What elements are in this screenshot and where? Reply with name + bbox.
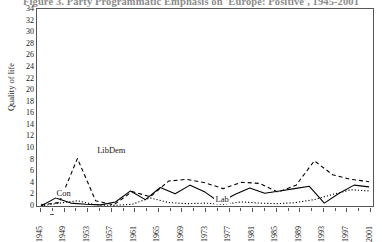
x-tick-label: 1969: [177, 226, 185, 242]
x-tick-mark: [64, 208, 65, 212]
x-tick-mark: [346, 208, 347, 212]
x-tick-mark: [299, 208, 300, 212]
y-tick-label: 34: [26, 5, 34, 13]
x-minor-tick-mark: [193, 208, 194, 211]
x-tick-mark: [276, 208, 277, 212]
x-tick-mark: [229, 208, 230, 212]
x-minor-tick-mark: [75, 208, 76, 211]
x-tick-mark: [252, 208, 253, 212]
x-tick-mark: [370, 208, 371, 212]
x-minor-tick-mark: [335, 208, 336, 211]
x-tick-mark: [181, 208, 182, 212]
x-tick-label: 1961: [130, 226, 138, 242]
y-tick-label: 6: [30, 167, 34, 175]
x-tick-label: 1949: [59, 226, 67, 242]
x-tick-label: 1977: [224, 226, 232, 242]
y-tick-label: 0: [30, 202, 34, 210]
y-tick-label: 28: [26, 40, 34, 48]
y-tick-label: 20: [26, 86, 34, 94]
y-tick-label: 24: [26, 63, 34, 71]
y-axis-title: Quality of life: [6, 47, 16, 127]
x-minor-tick-mark: [170, 208, 171, 211]
x-tick-label: 1953: [83, 226, 91, 242]
x-minor-tick-mark: [264, 208, 265, 211]
x-minor-tick-mark: [311, 208, 312, 211]
x-tick-mark: [134, 208, 135, 212]
x-minor-tick-mark: [240, 208, 241, 211]
y-tick-label: 14: [26, 121, 34, 129]
x-minor-tick-mark: [99, 208, 100, 211]
x-tick-label: 1945: [36, 226, 44, 242]
x-tick-mark: [158, 208, 159, 212]
series-group: [41, 158, 369, 206]
x-tick-label: 1981: [248, 226, 256, 242]
y-tick-label: 16: [26, 109, 34, 117]
x-tick-label: 1989: [295, 226, 303, 242]
x-tick-label: 1985: [271, 226, 279, 242]
y-tick-label: 30: [26, 28, 34, 36]
plot-area: ConLibDemLab: [36, 8, 374, 207]
x-minor-tick-mark: [217, 208, 218, 211]
x-minor-tick-mark: [146, 208, 147, 211]
x-tick-mark: [205, 208, 206, 212]
series-annotation-lab: Lab: [214, 194, 229, 204]
x-minor-tick-mark: [52, 208, 53, 211]
y-tick-label: 2: [30, 190, 34, 198]
x-tick-mark: [323, 208, 324, 212]
x-tick-mark: [40, 208, 41, 212]
chart-svg: [37, 9, 373, 206]
x-tick-label: 1997: [342, 226, 350, 242]
x-tick-label: 1957: [106, 226, 114, 242]
x-minor-tick-mark: [123, 208, 124, 211]
x-minor-tick-mark: [288, 208, 289, 211]
x-minor-tick-mark: [358, 208, 359, 211]
series-annotation-libdem: LibDem: [96, 145, 126, 155]
x-axis-tick-labels: 1945194919531957196119651969197319771981…: [36, 208, 374, 242]
x-tick-label: 1973: [201, 226, 209, 242]
x-tick-label: 2001: [366, 226, 374, 242]
y-tick-label: 12: [26, 132, 34, 140]
x-tick-mark: [111, 208, 112, 212]
y-axis-tick-labels: 3432302826242220181614121086420: [18, 8, 34, 207]
y-tick-label: 10: [26, 144, 34, 152]
y-tick-label: 26: [26, 51, 34, 59]
y-tick-label: 4: [30, 179, 34, 187]
x-tick-label: 1993: [318, 226, 326, 242]
x-tick-label: 1965: [153, 226, 161, 242]
y-tick-label: 8: [30, 156, 34, 164]
series-annotation-con: Con: [56, 188, 72, 198]
y-tick-label: 22: [26, 75, 34, 83]
y-tick-label: 32: [26, 17, 34, 25]
y-tick-label: 18: [26, 98, 34, 106]
x-tick-mark: [87, 208, 88, 212]
figure-title: Figure 3. Party Programmatic Emphasis on…: [0, 0, 382, 7]
